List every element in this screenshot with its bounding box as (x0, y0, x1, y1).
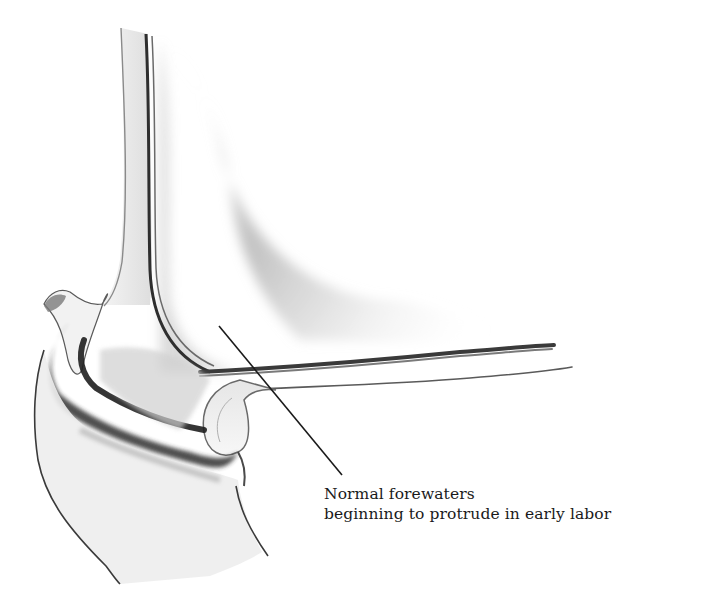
amniotic-cavity-shading (155, 40, 520, 372)
caption-line-2: beginning to protrude in early labor (324, 504, 611, 524)
caption-label: Normal forewaters beginning to protrude … (324, 484, 611, 524)
caption-line-1: Normal forewaters (324, 484, 611, 504)
cervical-lip (203, 380, 276, 486)
membranes (200, 345, 572, 390)
upper-fold (44, 291, 108, 375)
uterine-wall (100, 28, 214, 372)
